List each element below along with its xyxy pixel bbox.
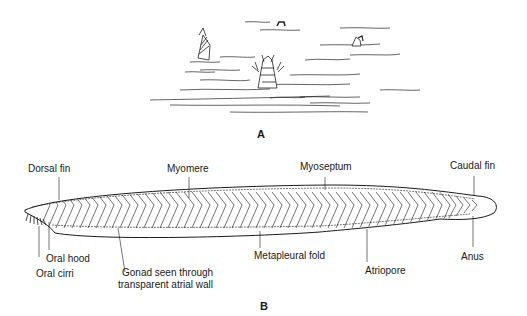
label-anus: Anus <box>461 251 484 262</box>
panel-b-label: B <box>260 300 268 312</box>
label-oral-cirri: Oral cirri <box>36 268 74 279</box>
label-oral-hood: Oral hood <box>46 253 90 264</box>
label-caudal-fin: Caudal fin <box>450 160 495 171</box>
panel-b-lancelet-anatomy <box>0 0 527 316</box>
label-gonad-line2: transparent atrial wall <box>118 279 213 290</box>
label-atriopore: Atriopore <box>365 265 406 276</box>
label-myomere: Myomere <box>167 163 209 174</box>
label-metapleural-fold: Metapleural fold <box>254 250 325 261</box>
label-gonad-line1: Gonad seen through <box>122 267 213 278</box>
label-myoseptum: Myoseptum <box>300 161 352 172</box>
label-dorsal-fin: Dorsal fin <box>28 163 70 174</box>
